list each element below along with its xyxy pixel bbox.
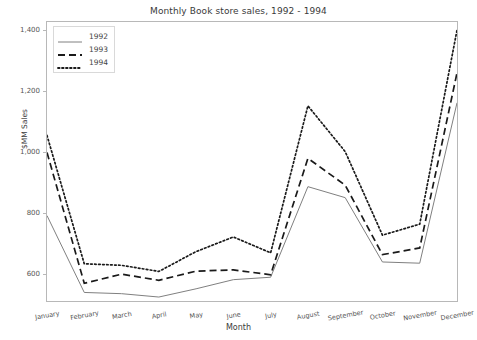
legend-item-1994[interactable]: 1994: [57, 56, 108, 69]
y-axis-label: $MM Sales: [20, 84, 29, 174]
y-tick-label: 1,000: [6, 148, 40, 156]
chart-title: Monthly Book store sales, 1992 - 1994: [0, 6, 477, 16]
legend-label: 1994: [89, 58, 108, 67]
x-tick-label: March: [101, 308, 142, 323]
x-tick-label: October: [362, 308, 403, 323]
legend-item-1993[interactable]: 1993: [57, 43, 108, 56]
legend-label: 1992: [89, 32, 108, 41]
x-tick-label: September: [325, 308, 366, 323]
x-tick-label: December: [437, 308, 477, 323]
legend-label: 1993: [89, 45, 108, 54]
x-tick-label: April: [139, 308, 180, 323]
x-tick-label: May: [176, 308, 217, 323]
legend-swatch-solid-icon: [57, 32, 83, 42]
y-tick-label: 800: [6, 209, 40, 217]
legend-swatch-dotted-icon: [57, 58, 83, 68]
x-tick-label: January: [27, 308, 68, 323]
x-tick-label: July: [251, 308, 292, 323]
legend-item-1992[interactable]: 1992: [57, 30, 108, 43]
x-tick-label: February: [64, 308, 105, 323]
series-line-1992: [47, 103, 457, 297]
y-tick-label: 1,200: [6, 87, 40, 95]
x-tick-label: August: [288, 308, 329, 323]
chart-screenshot: Monthly Book store sales, 1992 - 1994 $M…: [0, 0, 477, 340]
y-tick-label: 600: [6, 270, 40, 278]
legend-swatch-dashed-icon: [57, 45, 83, 55]
x-axis-label: Month: [0, 323, 477, 332]
y-tick-label: 1,400: [6, 26, 40, 34]
x-tick-label: November: [400, 308, 441, 323]
chart-legend: 199219931994: [53, 26, 115, 73]
x-tick-label: June: [213, 308, 254, 323]
series-line-1993: [47, 73, 457, 283]
